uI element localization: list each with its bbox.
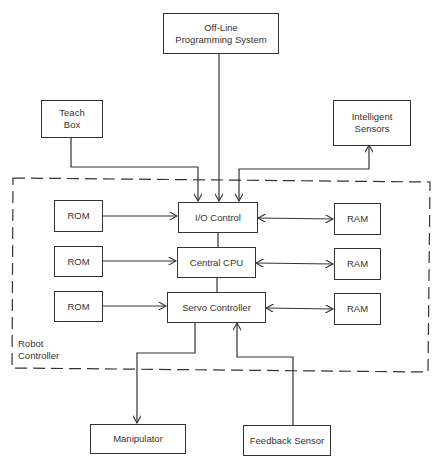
ram-label: RAM [347,303,368,315]
feedback-sensor-box: Feedback Sensor [243,425,331,456]
ram-box-2: RAM [334,248,381,280]
ram-label: RAM [347,258,368,270]
rom-box-3: ROM [54,291,103,322]
servo-controller-box: Servo Controller [167,292,266,323]
ram-box-3: RAM [334,293,381,325]
rom-box-2: ROM [54,246,103,277]
intelligent-sensors-label: Intelligent Sensors [352,111,393,135]
servo-controller-label: Servo Controller [182,302,251,314]
offline-programming-system-box: Off-Line Programming System [163,13,279,54]
io-control-box: I/O Control [178,202,258,233]
ram-label: RAM [347,213,368,225]
rom-label: ROM [67,256,89,268]
central-cpu-label: Central CPU [190,257,243,269]
rom-label: ROM [67,210,89,222]
intelligent-sensors-box: Intelligent Sensors [333,100,411,146]
central-cpu-box: Central CPU [177,247,256,278]
io-control-label: I/O Control [195,212,241,224]
offline-programming-system-label: Off-Line Programming System [175,22,266,46]
teach-box-label: Teach Box [59,107,84,131]
manipulator-label: Manipulator [113,433,163,445]
teach-box-box: Teach Box [41,100,103,138]
feedback-sensor-label: Feedback Sensor [250,435,324,447]
robot-controller-label: Robot Controller [18,338,59,362]
rom-box-1: ROM [54,200,103,232]
rom-label: ROM [67,301,89,313]
manipulator-box: Manipulator [90,424,186,454]
ram-box-1: RAM [334,203,381,235]
